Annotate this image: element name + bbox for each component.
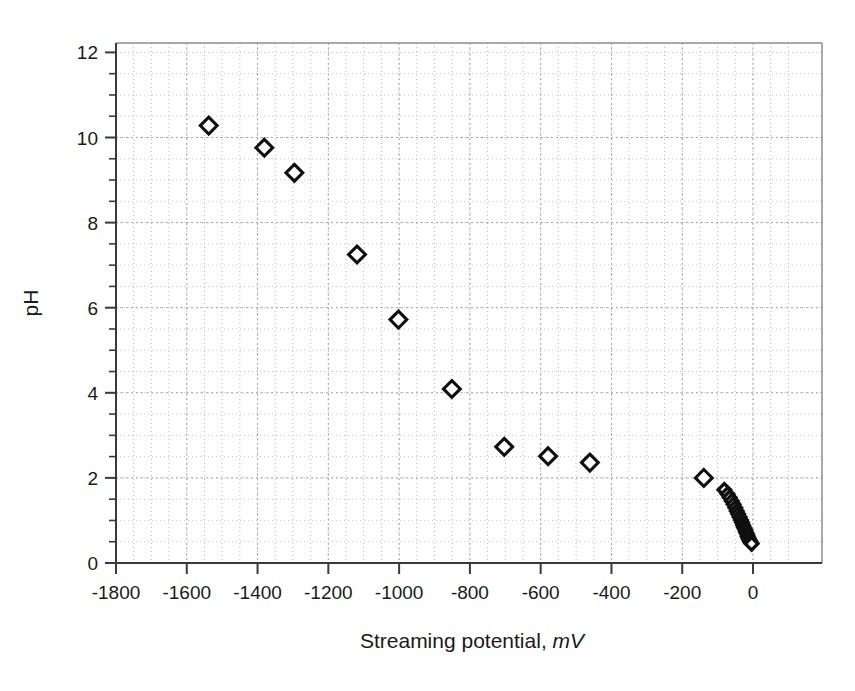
x-tick-label: -400 <box>592 582 630 603</box>
data-point-marker <box>443 381 460 398</box>
y-tick-label: 0 <box>87 553 98 574</box>
data-point-markers <box>200 117 757 550</box>
data-point-marker <box>349 246 366 263</box>
x-axis-title: Streaming potential, mV <box>360 629 586 652</box>
y-tick-label: 8 <box>87 213 98 234</box>
y-axis-tick-labels: 024681012 <box>77 42 99 574</box>
y-tick-label: 4 <box>87 383 98 404</box>
y-tick-label: 12 <box>77 42 98 63</box>
y-tick-label: 2 <box>87 468 98 489</box>
data-point-marker <box>496 438 513 455</box>
x-tick-label: -800 <box>451 582 489 603</box>
x-tick-label: -1800 <box>92 582 141 603</box>
data-point-marker <box>581 454 598 471</box>
x-tick-label: -600 <box>522 582 560 603</box>
chart-figure: 024681012 -1800-1600-1400-1200-1000-800-… <box>0 0 855 691</box>
data-point-marker <box>540 448 557 465</box>
x-tick-label: -1000 <box>375 582 424 603</box>
grid-minor-vertical <box>116 43 788 563</box>
x-axis-tick-labels: -1800-1600-1400-1200-1000-800-600-400-20… <box>92 582 759 603</box>
x-tick-label: -1600 <box>162 582 211 603</box>
data-point-marker <box>256 139 273 156</box>
grid-major-vertical <box>187 43 753 563</box>
data-point-marker <box>200 117 217 134</box>
x-axis-title-text: Streaming potential, <box>360 629 553 652</box>
x-axis-title-unit: mV <box>553 629 586 652</box>
y-tick-label: 10 <box>77 128 98 149</box>
x-tick-label: -1400 <box>233 582 282 603</box>
data-point-marker <box>286 164 303 181</box>
y-axis-ticks <box>105 52 116 563</box>
y-axis-title: pH <box>19 290 42 317</box>
data-point-marker <box>695 470 712 487</box>
scatter-plot: 024681012 -1800-1600-1400-1200-1000-800-… <box>0 0 855 691</box>
x-tick-label: 0 <box>748 582 759 603</box>
y-tick-label: 6 <box>87 298 98 319</box>
x-axis-ticks <box>116 563 753 574</box>
x-tick-label: -200 <box>663 582 701 603</box>
x-tick-label: -1200 <box>304 582 353 603</box>
data-point-marker <box>390 311 407 328</box>
